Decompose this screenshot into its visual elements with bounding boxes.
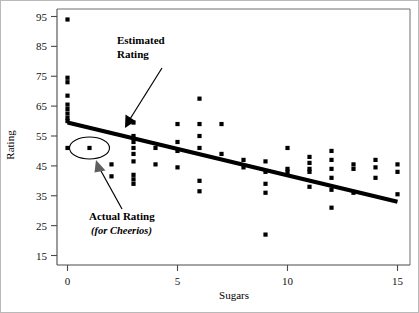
data-point: [329, 176, 333, 180]
data-point: [263, 232, 267, 236]
data-point: [65, 107, 69, 111]
y-tick-label: 25: [36, 220, 48, 232]
y-tick-label: 55: [36, 130, 48, 142]
data-point: [65, 103, 69, 107]
data-point: [197, 134, 201, 138]
data-point: [329, 149, 333, 153]
x-tick-label: 0: [65, 275, 71, 287]
data-point: [197, 146, 201, 150]
data-point: [131, 146, 135, 150]
actual-rating-label-line2: (for Cheerios): [91, 225, 152, 237]
data-point: [395, 162, 399, 166]
data-point: [131, 159, 135, 163]
data-point: [373, 158, 377, 162]
data-point: [197, 189, 201, 193]
estimated-rating-label-line2: Rating: [117, 48, 149, 60]
data-point: [329, 167, 333, 171]
data-point: [65, 17, 69, 21]
data-point: [197, 97, 201, 101]
y-tick-label: 35: [36, 190, 48, 202]
y-tick-label: 95: [36, 11, 48, 23]
data-point: [131, 182, 135, 186]
data-point: [241, 158, 245, 162]
data-point: [373, 165, 377, 169]
data-point: [65, 94, 69, 98]
y-axis-title: Rating: [4, 130, 16, 160]
data-point: [87, 146, 91, 150]
data-point: [65, 80, 69, 84]
data-point: [175, 165, 179, 169]
x-tick-label: 10: [282, 275, 294, 287]
x-tick-label: 5: [175, 275, 181, 287]
data-point: [65, 76, 69, 80]
chart-canvas: 152535455565758595 051015 Estimated Rati…: [0, 0, 419, 313]
data-point: [175, 122, 179, 126]
x-axis-title: Sugars: [219, 289, 249, 301]
y-tick-label: 75: [36, 70, 48, 82]
data-point: [329, 158, 333, 162]
data-point: [263, 191, 267, 195]
x-tick-label: 15: [392, 275, 404, 287]
y-tick-label: 15: [36, 250, 48, 262]
data-point: [263, 182, 267, 186]
data-point: [109, 174, 113, 178]
data-point: [219, 122, 223, 126]
data-point: [197, 122, 201, 126]
data-point: [65, 111, 69, 115]
y-tick-label: 45: [36, 160, 48, 172]
data-point: [219, 152, 223, 156]
y-tick-label: 65: [36, 100, 48, 112]
data-point: [307, 185, 311, 189]
data-point: [329, 206, 333, 210]
data-point: [351, 167, 355, 171]
data-point: [351, 162, 355, 166]
data-point: [153, 146, 157, 150]
data-point: [153, 162, 157, 166]
data-point: [307, 170, 311, 174]
estimated-rating-label-line1: Estimated: [117, 34, 165, 46]
data-point: [307, 161, 311, 165]
data-point: [131, 177, 135, 181]
data-point: [175, 140, 179, 144]
data-point: [373, 176, 377, 180]
y-tick-label: 85: [36, 40, 48, 52]
actual-rating-label-line1: Actual Rating: [89, 210, 155, 222]
data-point: [395, 170, 399, 174]
data-point: [131, 173, 135, 177]
scatter-plot-figure: 152535455565758595 051015 Estimated Rati…: [0, 0, 419, 313]
data-point: [395, 192, 399, 196]
data-point: [263, 159, 267, 163]
data-point: [197, 179, 201, 183]
data-point: [285, 146, 289, 150]
data-point: [109, 162, 113, 166]
data-point: [307, 155, 311, 159]
data-point: [131, 152, 135, 156]
